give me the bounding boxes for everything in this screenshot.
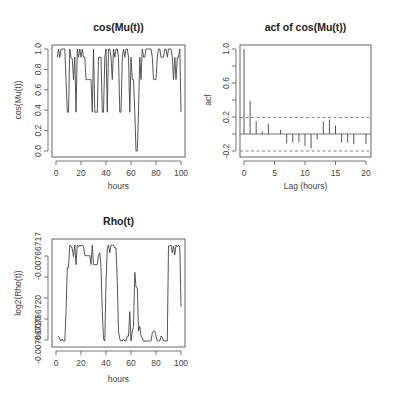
- x-tick-label: 20: [76, 358, 86, 368]
- x-tick-label: 20: [361, 168, 371, 178]
- y-tick-label: 0.4: [33, 104, 43, 116]
- x-tick-label: 60: [126, 168, 136, 178]
- y-tick-label: 0.6: [33, 84, 43, 96]
- x-tick-label: 0: [242, 168, 247, 178]
- panel-acf: acf of cos(Mu(t)) -0.20.20.61.0 05101520…: [203, 21, 371, 191]
- x-axis-label-rho: hours: [108, 374, 129, 384]
- x-tick-label: 60: [126, 358, 136, 368]
- y-tick-label: -0.00766717: [33, 232, 43, 280]
- x-tick-label: 10: [300, 168, 310, 178]
- y-tick-label: 1.0: [33, 43, 43, 55]
- x-tick-label: 15: [331, 168, 341, 178]
- y-tick-label: -0.2: [221, 143, 231, 158]
- x-tick-label: 40: [101, 358, 111, 368]
- x-tick-label: 100: [174, 358, 188, 368]
- x-axis-rho: 020406080100: [54, 351, 189, 368]
- x-tick-label: 80: [151, 168, 161, 178]
- y-axis-label-rho: log2(Rho(t)): [13, 270, 23, 316]
- x-axis-label-acf: Lag (hours): [284, 181, 328, 191]
- panel-rho: Rho(t) -0.00766717-0.00766720-0.00766720…: [13, 215, 188, 384]
- x-axis-acf: 05101520: [242, 161, 371, 178]
- line-series-cosmu: [57, 49, 181, 151]
- chart-canvas: cos(Mu(t)) 0.00.20.40.60.81.0 0204060801…: [0, 0, 395, 404]
- x-tick-label: 5: [272, 168, 277, 178]
- x-tick-label: 40: [101, 168, 111, 178]
- chart-title-cosmu: cos(Mu(t)): [93, 21, 144, 33]
- y-axis-label-cosmu: cos(Mu(t)): [13, 80, 23, 119]
- y-tick-label: 0.2: [33, 124, 43, 136]
- y-tick-label: 0.2: [221, 111, 231, 123]
- plot-frame-acf: [240, 45, 371, 157]
- x-tick-label: 0: [54, 358, 59, 368]
- x-tick-label: 80: [151, 358, 161, 368]
- chart-title-acf: acf of cos(Mu(t)): [265, 21, 347, 33]
- y-tick-label: 0.0: [33, 145, 43, 157]
- y-tick-label: 1.0: [221, 43, 231, 55]
- x-axis-cosmu: 020406080100: [54, 161, 189, 178]
- chart-title-rho: Rho(t): [103, 215, 134, 227]
- x-tick-label: 100: [174, 168, 188, 178]
- x-axis-label-cosmu: hours: [108, 181, 129, 191]
- line-series-rho: [59, 245, 182, 341]
- panel-cosmu: cos(Mu(t)) 0.00.20.40.60.81.0 0204060801…: [13, 21, 188, 191]
- x-tick-label: 20: [76, 168, 86, 178]
- y-axis-label-acf: acf: [203, 94, 213, 106]
- y-tick-label: -0.00766720: [33, 316, 43, 364]
- y-axis-rho: -0.00766717-0.00766720-0.00766720: [33, 232, 48, 364]
- y-axis-acf: -0.20.20.61.0: [221, 43, 236, 159]
- y-tick-label: 0.8: [33, 63, 43, 75]
- y-axis-cosmu: 0.00.20.40.60.81.0: [33, 43, 48, 157]
- x-tick-label: 0: [54, 168, 59, 178]
- acf-spikes: [244, 49, 366, 148]
- y-tick-label: 0.6: [221, 77, 231, 89]
